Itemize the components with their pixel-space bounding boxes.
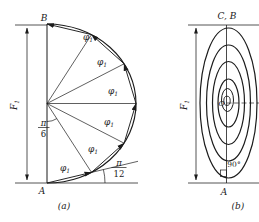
phi-subscript: 1 <box>89 36 93 43</box>
pi12-denominator: 12 <box>114 169 125 179</box>
caption-b: (b) <box>232 201 245 211</box>
phi-label-6: φ1 <box>83 32 93 43</box>
chord-vector-3 <box>124 104 136 144</box>
right-angle-label: 90° <box>227 160 241 169</box>
point-label-a-b: A <box>220 187 228 197</box>
angle-label-pi12: π 12 <box>114 158 125 179</box>
pi6-denominator: 6 <box>41 129 46 139</box>
radial-line-60 <box>47 35 92 104</box>
pi12-numerator: π <box>115 158 122 168</box>
radial-line-30 <box>47 64 124 104</box>
force-polygon-diagram: B A F1 φ1 φ1 φ1 φ1 φ1 φ1 π 6 π 12 (a) <box>0 0 259 222</box>
force-subscript: 1 <box>183 100 190 104</box>
phi-labels: φ1 φ1 φ1 φ1 φ1 φ1 <box>60 32 118 174</box>
phi-label-4: φ1 <box>108 86 118 97</box>
caption-a: (a) <box>58 201 71 211</box>
point-label-b: B <box>40 13 48 23</box>
phi-subscript: 1 <box>110 121 114 128</box>
phi-label-2: φ1 <box>88 144 98 155</box>
phi-subscript: 1 <box>103 61 107 68</box>
point-label-a: A <box>38 186 46 196</box>
phi-label-1: φ1 <box>60 163 70 174</box>
phi-subscript: 1 <box>94 148 98 155</box>
force-label-f1-a: F1 <box>9 100 20 111</box>
force-label-f1-b: F1 <box>179 100 190 111</box>
diagram-canvas: B A F1 φ1 φ1 φ1 φ1 φ1 φ1 π 6 π 12 (a) <box>0 0 259 222</box>
radial-line-m60 <box>47 104 92 173</box>
phi-label-3: φ1 <box>104 117 114 128</box>
chord-vector-4 <box>124 64 136 104</box>
force-subscript: 1 <box>13 100 20 104</box>
phi-subscript: 1 <box>114 90 118 97</box>
pi6-numerator: π <box>40 118 47 128</box>
center-label-o: O <box>218 99 225 108</box>
phi-subscript: 1 <box>66 167 70 174</box>
angle-arc-pi6 <box>47 119 57 122</box>
angle-arc-pi12 <box>103 170 105 184</box>
point-label-cb: C, B <box>218 11 237 21</box>
angle-label-pi6: π 6 <box>40 118 47 139</box>
phi-label-5: φ1 <box>97 57 107 68</box>
